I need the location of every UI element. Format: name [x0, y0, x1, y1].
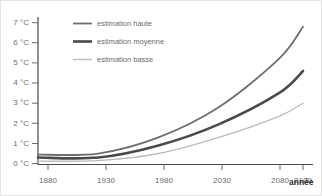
x-tick-label-1980: 1980: [144, 176, 184, 185]
series-line-moyenne: [38, 71, 303, 158]
chart-figure: 7 °C 6 °C 5 °C 4 °C 3 °C 2 °C 1 °C 0 °C …: [0, 0, 322, 196]
chart-series-group: [38, 27, 303, 162]
chart-plot-area: [1, 1, 322, 196]
x-axis-ticks: [48, 165, 303, 171]
legend-label-moyenne: estimation moyenne: [97, 37, 164, 46]
y-tick-label-5: 5 °C: [3, 58, 29, 67]
x-axis-title: année: [289, 177, 314, 187]
x-tick-label-2030: 2030: [202, 176, 242, 185]
y-axis-ticks: [32, 23, 38, 164]
legend-swatches: [73, 24, 92, 60]
y-tick-label-0: 0 °C: [3, 159, 29, 168]
y-tick-label-4: 4 °C: [3, 78, 29, 87]
y-tick-label-2: 2 °C: [3, 119, 29, 128]
legend-label-basse: estimation basse: [97, 55, 153, 64]
legend-label-haute: estimation haute: [97, 19, 152, 28]
y-tick-label-1: 1 °C: [3, 139, 29, 148]
y-tick-label-6: 6 °C: [3, 38, 29, 47]
y-tick-label-7: 7 °C: [3, 18, 29, 27]
series-line-haute: [38, 27, 303, 155]
x-tick-label-1930: 1930: [86, 176, 126, 185]
x-tick-label-1880: 1880: [28, 176, 68, 185]
y-tick-label-3: 3 °C: [3, 98, 29, 107]
